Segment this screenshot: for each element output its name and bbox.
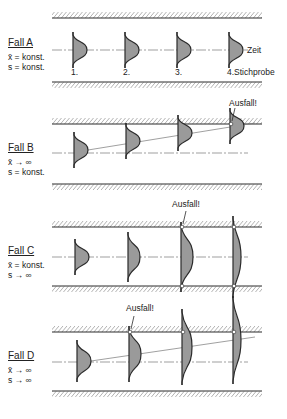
case-d-title: Fall D <box>8 350 34 361</box>
sample-2-label: 2. <box>123 67 130 77</box>
distribution-fill <box>230 108 244 144</box>
failure-point-marker <box>232 284 236 288</box>
lower-limit-hatch <box>52 82 262 88</box>
failure-point-marker <box>180 284 184 288</box>
failure-point-marker <box>232 330 236 334</box>
failure-point-marker <box>181 330 185 334</box>
case-c-mean: x̄ = konst. <box>8 260 45 270</box>
failure-label-c: Ausfall! <box>172 199 200 209</box>
failure-label-b: Ausfall! <box>229 98 257 108</box>
distribution-fill <box>125 32 139 68</box>
case-a-title: Fall A <box>8 37 33 48</box>
case-b-mean: x̄ → ∞ <box>8 157 32 167</box>
mean-trend-line <box>91 337 255 361</box>
upper-limit-hatch <box>52 326 262 332</box>
distribution-fill <box>74 132 88 168</box>
distribution-fill <box>177 32 191 68</box>
case-c <box>52 211 262 298</box>
case-b-title: Fall B <box>8 142 34 153</box>
time-axis-label: Zeit <box>247 45 261 55</box>
lower-limit-hatch <box>52 286 262 292</box>
failure-point-marker <box>229 122 233 126</box>
distribution-fill <box>229 32 243 68</box>
case-c-sd: s → ∞ <box>8 270 32 280</box>
failure-label-d: Ausfall! <box>126 303 154 313</box>
distribution-fill <box>73 32 87 68</box>
failure-point-marker <box>232 225 236 229</box>
failure-point-marker <box>128 330 132 334</box>
distribution-fill <box>126 123 140 159</box>
case-a-sd: s = konst. <box>8 62 45 72</box>
lower-limit-hatch <box>52 184 262 190</box>
sample-4-label: 4.Stichprobe <box>227 67 275 77</box>
case-d-sd: s → ∞ <box>8 375 32 385</box>
case-d-mean: x̄ → ∞ <box>8 365 32 375</box>
upper-limit-hatch <box>52 12 262 18</box>
case-b <box>52 108 262 190</box>
diagram-root: Fall A x̄ = konst. s = konst. Fall B x̄ … <box>0 0 287 419</box>
distribution-fill <box>75 239 89 275</box>
case-a-mean: x̄ = konst. <box>8 52 45 62</box>
sample-1-label: 1. <box>71 67 78 77</box>
case-d <box>52 296 262 397</box>
failure-point-marker <box>180 225 184 229</box>
upper-limit-hatch <box>52 221 262 227</box>
sample-3-label: 3. <box>175 67 182 77</box>
case-c-title: Fall C <box>8 245 34 256</box>
case-b-sd: s = konst. <box>8 167 45 177</box>
lower-limit-hatch <box>52 391 262 397</box>
